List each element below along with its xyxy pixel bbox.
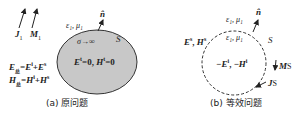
source-M-arrow	[32, 9, 37, 28]
Ms-label: MS	[279, 62, 291, 71]
caption-a: (a) 原问题	[46, 99, 88, 108]
interior-field-label: Et=0, Ht=0	[74, 58, 115, 67]
caption-b: (b) 等效问题	[210, 99, 262, 108]
outer-medium-label: ε₁, μ₁	[226, 16, 243, 24]
surface-label-b: S	[268, 36, 273, 45]
scattered-field-label: Es, Hs	[184, 38, 206, 47]
inner-medium-label: ε₁, μ₁	[226, 34, 243, 42]
source-J-arrow	[19, 9, 25, 28]
Js-arrow	[256, 82, 266, 87]
Js-label: JS	[268, 79, 277, 88]
normal-label-a: n̂	[100, 10, 105, 19]
Ms-arrow	[275, 60, 276, 70]
inner-field-label: −Ei, −Hi	[216, 60, 247, 69]
total-E-equation: E总=Ei+Es	[9, 63, 46, 72]
source-J-label: J1	[15, 30, 23, 39]
conductivity-label: σ→∞	[77, 38, 95, 46]
surface-label-a: S	[116, 35, 121, 44]
normal-arrow-a	[98, 20, 103, 31]
source-M-label: M1	[30, 30, 41, 39]
normal-label-b: n̂	[256, 8, 261, 17]
normal-arrow-b	[253, 20, 258, 32]
medium-label-a: ε₁, μ₁	[66, 22, 83, 30]
total-H-equation: H总=Hi+Hs	[9, 76, 49, 85]
